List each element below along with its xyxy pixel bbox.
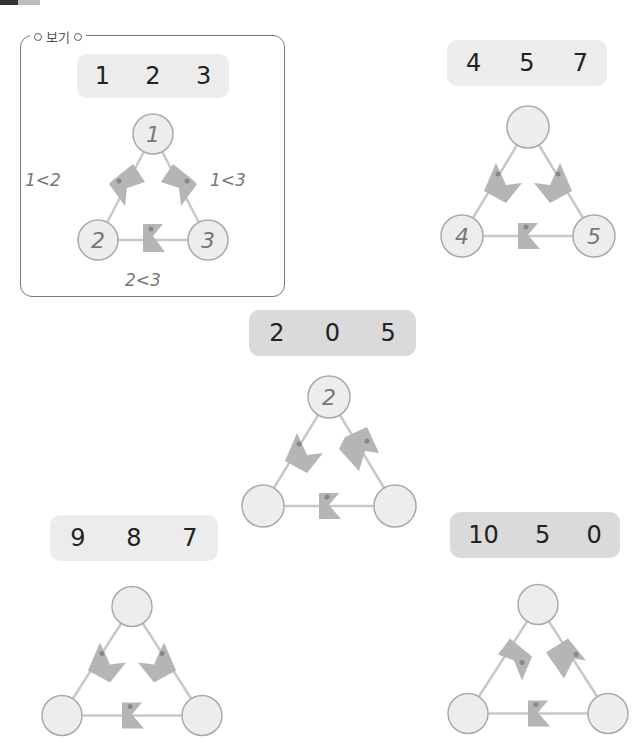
triangle-puzzle: 4 5 [428,95,628,265]
example-label-text: 보기 [46,27,70,46]
svg-text:2: 2 [322,385,336,410]
number: 4 [466,49,481,77]
number: 10 [468,521,499,549]
svg-text:4: 4 [455,224,469,249]
number: 1 [95,62,110,90]
pacman-icon [143,224,165,252]
triangle-puzzle [32,572,232,747]
svg-text:1: 1 [146,122,160,147]
svg-text:3: 3 [201,228,215,253]
number: 7 [573,49,588,77]
number: 8 [126,524,141,552]
example-number-card: 1 2 3 [77,54,229,98]
annotation-right: 1<3 [210,170,246,190]
pacman-icon [161,164,197,206]
number-card: 4 5 7 [447,40,607,86]
number-card: 9 8 7 [50,515,218,561]
number-card: 2 0 5 [249,310,416,356]
pacman-icon [546,639,586,679]
pacman-icon [138,643,176,683]
number: 2 [145,62,160,90]
number: 0 [325,319,340,347]
number: 5 [535,521,550,549]
svg-text:5: 5 [587,224,601,249]
triangle-puzzle: 2 [229,365,429,535]
pacman-icon [109,164,145,206]
example-label: 보기 [30,27,86,46]
number: 0 [587,521,602,549]
circle-icon [34,33,42,41]
triangle-puzzle [438,570,638,745]
circle-icon [74,33,82,41]
number: 7 [182,524,197,552]
number: 5 [519,49,534,77]
number-card: 10 5 0 [450,512,620,558]
number: 5 [381,319,396,347]
number: 9 [70,524,85,552]
number: 3 [196,62,211,90]
light-tab-icon [18,0,40,5]
annotation-bottom: 2<3 [125,270,161,290]
pacman-icon [88,643,126,683]
svg-text:2: 2 [91,228,105,253]
pacman-icon [339,427,379,471]
annotation-left: 1<2 [25,170,61,190]
number: 2 [269,319,284,347]
